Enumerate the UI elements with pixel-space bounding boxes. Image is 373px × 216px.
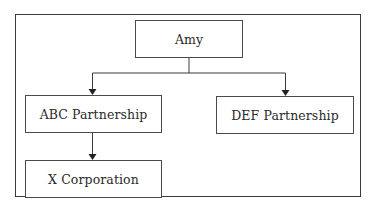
node-x-corporation: X Corporation (25, 160, 162, 198)
node-label: DEF Partnership (231, 108, 338, 123)
node-label: ABC Partnership (40, 107, 148, 122)
node-amy: Amy (135, 20, 243, 58)
node-label: X Corporation (48, 172, 139, 187)
node-label: Amy (175, 32, 203, 47)
node-abc-partnership: ABC Partnership (25, 95, 162, 133)
node-def-partnership: DEF Partnership (216, 96, 354, 134)
